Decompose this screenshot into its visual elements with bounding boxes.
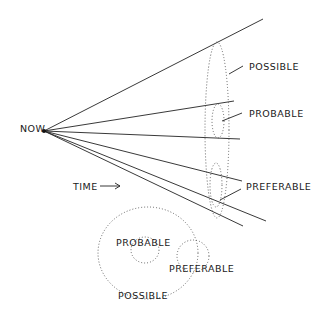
venn-diagram: PROBABLE PREFERABLE POSSIBLE: [98, 207, 234, 301]
venn-possible-circle: [98, 207, 198, 299]
time-arrow-icon: [100, 183, 120, 189]
probable-leader: [222, 113, 242, 121]
cone-lines: [44, 19, 266, 226]
venn-preferable-label: PREFERABLE: [169, 263, 234, 274]
time-label: TIME: [72, 181, 98, 192]
venn-possible-label: POSSIBLE: [118, 290, 168, 301]
preferable-label: PREFERABLE: [246, 181, 311, 192]
futures-cone-diagram: NOW POSSIBLE PROBABLE PREFERABLE TIME PR…: [0, 0, 326, 321]
now-label: NOW: [20, 123, 46, 134]
venn-probable-label: PROBABLE: [116, 237, 171, 248]
possible-leader: [229, 66, 243, 74]
preferable-leader: [220, 189, 241, 200]
possible-ellipse: [205, 42, 229, 218]
probable-label: PROBABLE: [249, 108, 304, 119]
possible-label: POSSIBLE: [249, 61, 299, 72]
